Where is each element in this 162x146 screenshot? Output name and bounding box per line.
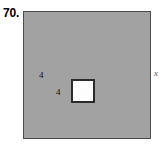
inner-square-bottom-dimension-label: 4 [56, 87, 61, 97]
inner-square-left-dimension-label: 4 [39, 70, 44, 80]
outer-square-side-dimension-label: x [154, 68, 158, 78]
problem-number-label: 70. [3, 7, 19, 20]
inner-white-square [71, 79, 95, 103]
geometry-figure: 70. 4 4 x [0, 0, 162, 146]
